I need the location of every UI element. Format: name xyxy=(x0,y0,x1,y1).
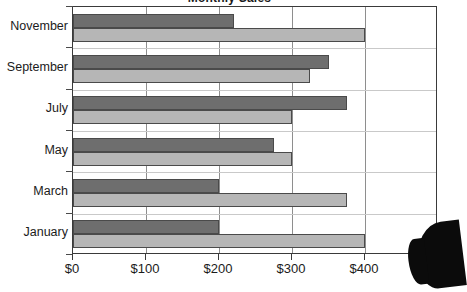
gridline-vertical xyxy=(219,7,220,253)
gridline-vertical xyxy=(292,7,293,253)
y-axis-tick xyxy=(66,89,73,90)
gridline-horizontal xyxy=(73,48,436,49)
x-axis-label-100: $100 xyxy=(131,261,160,276)
bar-january-series-2 xyxy=(73,220,219,234)
plot-area xyxy=(72,6,437,254)
x-axis-label-0: $0 xyxy=(65,261,79,276)
bar-september-series-1 xyxy=(73,69,310,83)
bar-july-series-2 xyxy=(73,96,347,110)
gridline-horizontal xyxy=(73,214,436,215)
x-axis-label-300: $300 xyxy=(277,261,306,276)
x-axis-tick xyxy=(437,254,438,260)
chart-title: Monthly Sales xyxy=(0,0,459,5)
y-axis-label-january: January xyxy=(0,225,68,239)
bar-may-series-2 xyxy=(73,138,274,152)
y-axis-label-july: July xyxy=(0,101,68,115)
bar-november-series-2 xyxy=(73,14,234,28)
y-axis-label-september: September xyxy=(0,60,68,74)
bar-november-series-1 xyxy=(73,28,365,42)
gridline-horizontal xyxy=(73,172,436,173)
x-axis-tick xyxy=(145,254,146,260)
bar-january-series-1 xyxy=(73,234,365,248)
y-axis-tick xyxy=(66,130,73,131)
y-axis-tick xyxy=(66,171,73,172)
x-axis-tick xyxy=(218,254,219,260)
gridline-horizontal xyxy=(73,90,436,91)
x-axis-tick xyxy=(72,254,73,260)
gridline-vertical xyxy=(146,7,147,253)
x-axis-label-500: $50 xyxy=(426,261,448,276)
bar-september-series-2 xyxy=(73,55,329,69)
y-axis-label-november: November xyxy=(0,19,68,33)
y-axis-tick xyxy=(66,213,73,214)
bar-march-series-1 xyxy=(73,193,347,207)
y-axis-tick xyxy=(66,47,73,48)
x-axis-label-400: $400 xyxy=(350,261,379,276)
gridline-horizontal xyxy=(73,131,436,132)
bar-july-series-1 xyxy=(73,110,292,124)
x-axis-tick xyxy=(291,254,292,260)
gridline-vertical xyxy=(365,7,366,253)
x-axis-label-200: $200 xyxy=(204,261,233,276)
y-axis-tick xyxy=(66,6,73,7)
y-axis-label-may: May xyxy=(0,143,68,157)
bar-may-series-1 xyxy=(73,152,292,166)
y-axis-label-march: March xyxy=(0,184,68,198)
bar-march-series-2 xyxy=(73,179,219,193)
x-axis-tick xyxy=(364,254,365,260)
y-axis-labels: NovemberSeptemberJulyMayMarchJanuary xyxy=(0,0,68,282)
